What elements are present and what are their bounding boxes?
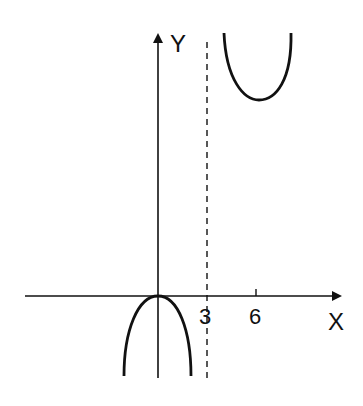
y-axis-label: Y [170, 30, 186, 57]
graph-canvas: Y X 3 6 [0, 0, 363, 406]
upper-branch-curve [224, 33, 291, 100]
tick-label-3: 3 [199, 304, 211, 329]
x-axis-label: X [328, 308, 344, 335]
tick-label-6: 6 [249, 304, 261, 329]
